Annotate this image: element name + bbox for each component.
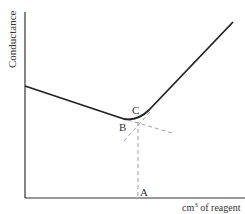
titration-curve: [25, 22, 233, 119]
x-axis-unit: cm: [182, 202, 194, 213]
extrapolation-right-line: [124, 112, 150, 141]
point-a-label: A: [140, 186, 148, 198]
point-c-label: C: [132, 104, 139, 116]
conductance-diagram: Conductance C B A cm3 of reagent: [0, 0, 245, 214]
point-b-label: B: [119, 121, 126, 133]
x-axis-text: of reagent: [198, 202, 241, 213]
extrapolation-left-line: [128, 120, 172, 133]
x-axis-label: cm3 of reagent: [182, 201, 241, 213]
y-axis-label: Conductance: [6, 10, 18, 68]
